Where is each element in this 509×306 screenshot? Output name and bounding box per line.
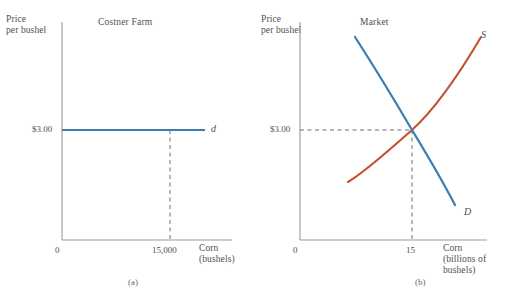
panel-b-price-tick: $3.00 <box>270 124 290 134</box>
panel-a-caption: (a) <box>128 277 138 287</box>
figure-root: Price per bushel Costner Farm $3.00 d 0 … <box>0 0 509 306</box>
panel-b-quantity-tick: 15 <box>406 245 415 255</box>
panel-b-supply-label: S <box>481 29 486 40</box>
panel-b-x-axis-title: Corn (billions of bushels) <box>443 243 486 276</box>
panel-a-quantity-tick: 15,000 <box>152 245 177 255</box>
panel-a-price-tick: $3.00 <box>32 124 52 134</box>
panel-costner-farm: Price per bushel Costner Farm $3.00 d 0 … <box>0 0 254 306</box>
panel-b-origin-label: 0 <box>293 245 298 255</box>
panel-b-demand-label: D <box>464 206 471 217</box>
panel-market: Price per bushel Market $3.00 S D 0 15 C… <box>255 0 509 306</box>
panel-a-origin-label: 0 <box>55 245 60 255</box>
panel-b-caption: (b) <box>415 277 426 287</box>
panel-a-demand-label: d <box>211 123 216 134</box>
panel-b-demand-curve <box>355 37 455 205</box>
panel-a-x-axis-title: Corn (bushels) <box>199 243 235 265</box>
